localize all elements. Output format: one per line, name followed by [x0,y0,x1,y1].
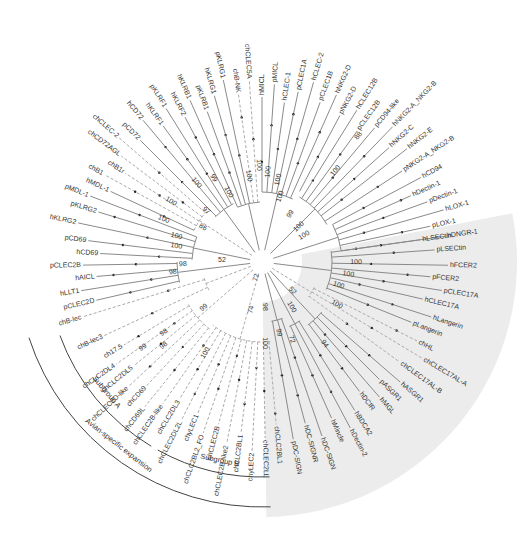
internal-branch [249,204,260,251]
leaf-label: chCLEC2B-like2 [212,445,229,497]
leaf-branch [378,171,402,187]
leaf-stem [219,336,231,365]
leaf-label: pKLRB1 [194,84,210,111]
bootstrap-value: 99 [209,173,219,183]
bootstrap-value: 99 [285,208,295,218]
node-dot [371,327,373,329]
bootstrap-value: 98 [262,303,269,311]
node-dot [217,387,219,389]
leaf-label: pKLRG1 [214,51,227,79]
leaf-label: chB1 [87,162,104,176]
node-dot [196,368,198,370]
leaf-label: hCD69 [76,248,98,256]
leaf-label: hMICL [258,74,265,95]
bootstrap-value: 100 [264,166,272,178]
leaf-stem [150,320,200,366]
node-dot [134,191,136,193]
leaf-label: pKLRG2 [70,200,98,216]
bootstrap-value: 88 [353,130,363,141]
bootstrap-value: 100 [350,258,362,265]
leaf-stem [136,263,177,264]
leaf-branch [249,80,253,139]
leaf-stem [318,179,354,212]
leaf-branch [125,173,159,195]
bootstrap-value: 100 [275,190,285,203]
leaf-label: hCD72 [126,99,145,120]
leaf-branch [121,156,182,202]
leaf-stem [151,275,178,279]
leaf-label: pMICL [270,61,279,82]
leaf-stem [339,233,364,240]
bootstrap-value: 99 [137,342,148,352]
leaf-branch [124,336,139,345]
leaf-label: chCLEC5A [244,44,253,79]
leaf-branch [401,196,411,200]
leaf-label: chB1r [107,159,127,175]
leaf-branch [185,117,196,137]
leaf-branch [83,264,136,265]
leaf-branch [81,280,151,291]
bootstrap-value: 100 [165,195,179,207]
leaf-branch [78,223,147,238]
bootstrap-value: 86 [198,222,208,232]
leaf-stem [130,281,179,292]
leaf-branch [96,292,130,300]
bootstrap-value: 98 [179,260,187,267]
internal-branch [265,194,278,251]
leaf-branch [163,346,204,404]
leaf-stem [237,339,241,355]
leaf-stem [174,311,192,324]
leaf-branch [100,254,159,257]
leaf-label: hCLEC-1 [281,71,292,101]
leaf-stem [300,157,318,191]
leaf-stem [256,342,257,368]
leaf-branch [318,115,340,156]
leaf-stem [337,218,383,235]
bootstrap-value: 98 [158,327,169,337]
bootstrap-value: 100 [329,164,342,178]
leaf-label: hLOX-1 [444,199,469,212]
leaf-label: ch17.5 [102,342,124,359]
leaf-label: hFCER2 [450,261,477,268]
leaf-branch [214,96,225,135]
leaf-stem [286,163,298,196]
leaf-stem [267,125,272,192]
leaf-branch [111,191,164,216]
leaf-branch [227,380,239,444]
bootstrap-value: 100 [190,176,203,190]
bootstrap-value: 100 [262,337,269,349]
tree-canvas: hLSECtinpLSECtinhFCER2pFCER2pCLEC17AhCLE… [0,0,529,539]
leaf-branch [163,126,187,159]
leaf-stem [203,328,216,346]
leaf-label: chB-lec3 [76,333,104,351]
leaf-label: pNKG2-A_NKG2-B [401,134,456,174]
leaf-label: hCD94 [421,163,444,179]
leaf-stem [321,200,341,216]
leaf-branch [190,100,214,154]
leaf-branch [293,92,298,114]
bootstrap-value: 52 [218,256,226,263]
leaf-branch [166,109,207,174]
bootstrap-value: 100 [256,159,264,171]
leaf-label: chCD69 [125,384,147,407]
bootstrap-value: 100 [170,231,183,241]
leaf-branch [88,241,123,245]
internal-branch [224,209,255,252]
leaf-branch [252,368,256,451]
leaf-stem [333,208,364,224]
leaf-label: chB-lec [58,313,83,327]
leaf-branch [90,196,139,215]
leaf-branch [83,291,168,317]
bootstrap-value: 97 [201,205,212,215]
leaf-stem [242,117,254,202]
leaf-branch [219,356,237,425]
bootstrap-value: 99 [198,302,209,312]
bootstrap-value: 100 [199,346,211,360]
leaf-branch [241,404,245,433]
leaf-label: pCD69 [64,234,87,245]
leaf-label: chCLEC2LL [262,440,270,478]
leaf-branch [98,212,114,217]
leaf-branch [97,275,114,276]
leaf-branch [238,95,241,118]
bootstrap-value: 100 [245,169,254,182]
